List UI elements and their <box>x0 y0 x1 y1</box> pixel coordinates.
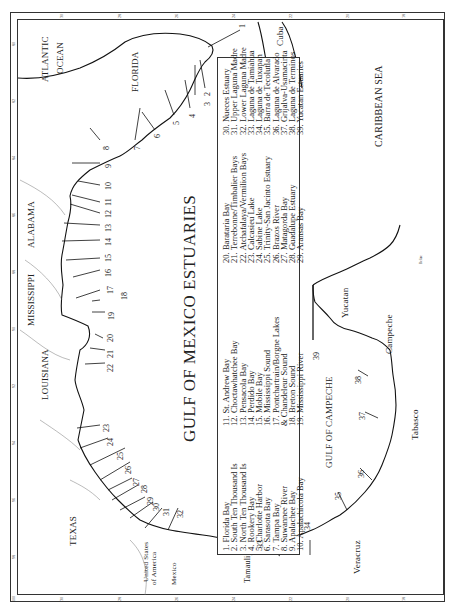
callout-30: 30 <box>152 503 161 511</box>
callout-28: 28 <box>140 485 149 493</box>
label-yucatan: Yucatan <box>340 288 350 318</box>
lon-tick-88: 88 <box>11 270 16 274</box>
legend-item: 10. Apalachicola Bay <box>296 463 304 551</box>
map-title: GULF OF MEXICO ESTUARIES <box>180 195 200 442</box>
label-florida: FLORIDA <box>130 52 140 92</box>
label-louisiana: LOUISIANA <box>40 349 50 400</box>
lon-tick-92: 92 <box>11 384 16 388</box>
lat-tick-26-bottom: 26 <box>174 597 179 601</box>
lat-tick-26-top: 26 <box>174 14 179 18</box>
label-texas: TEXAS <box>68 516 78 546</box>
lon-tick-82: 82 <box>11 99 16 103</box>
callout-4: 4 <box>188 114 197 118</box>
callout-22: 22 <box>106 364 115 372</box>
label-gulf-of-campeche: GULF OF CAMPECHE <box>324 376 334 468</box>
label-atlantic: ATLANTIC <box>40 36 50 82</box>
callout-2: 2 <box>203 92 212 96</box>
lon-tick-98: 98 <box>11 555 16 559</box>
callout-34: 34 <box>303 522 312 530</box>
callout-32: 32 <box>176 510 185 518</box>
label-campeche: Campeche <box>384 314 394 354</box>
callout-16: 16 <box>104 269 113 277</box>
label-cuba: Cuba <box>275 26 285 46</box>
callout-24: 24 <box>106 438 115 446</box>
legend-item: 39. Yucatan Estuaries <box>296 47 304 135</box>
label-belize: Belize <box>419 255 423 264</box>
label-usa-line2: of America <box>150 552 158 585</box>
callout-17: 17 <box>106 286 115 294</box>
callout-38: 38 <box>354 376 363 384</box>
lat-tick-18-top: 18 <box>401 14 406 18</box>
callout-9: 9 <box>104 164 113 168</box>
lat-tick-30-top: 30 <box>59 14 64 18</box>
lon-tick-100: 100 <box>11 596 16 602</box>
callout-7: 7 <box>133 146 142 150</box>
legend-column-1: 1. Florida Bay 2. South Ten Thousand Is … <box>222 463 305 551</box>
legend-column-2: 11. St. Andrew Bay 12. Choctawhatchee Ba… <box>222 317 305 426</box>
legend-column-4: 30. Nueces Estuary 31. Upper Laguna Madr… <box>222 47 305 135</box>
lon-tick-84: 84 <box>11 156 16 160</box>
label-tabasco: Tabasco <box>410 409 420 440</box>
callout-21: 21 <box>106 350 115 358</box>
lon-tick-86: 86 <box>11 213 16 217</box>
callout-23: 23 <box>102 424 111 432</box>
label-veracruz: Veracruz <box>352 540 362 574</box>
label-ocean: OCEAN <box>55 42 65 74</box>
callout-14: 14 <box>104 238 113 246</box>
label-mexico: Mexico <box>170 562 178 585</box>
callout-25: 25 <box>116 452 125 460</box>
lat-tick-22-bottom: 22 <box>288 597 293 601</box>
callout-26: 26 <box>124 466 133 474</box>
label-alabama: ALABAMA <box>26 201 36 248</box>
callout-3: 3 <box>203 102 212 106</box>
callout-5: 5 <box>172 121 181 125</box>
callout-19: 19 <box>107 312 116 320</box>
lon-tick-94: 94 <box>11 441 16 445</box>
lat-tick-24-top: 24 <box>231 14 236 18</box>
callout-8: 8 <box>102 146 111 150</box>
callout-33: 33 <box>256 540 265 548</box>
lon-tick-90: 90 <box>11 327 16 331</box>
lat-tick-20-top: 20 <box>345 14 350 18</box>
callout-15: 15 <box>104 254 113 262</box>
callout-12: 12 <box>104 210 113 218</box>
callout-37: 37 <box>358 412 367 420</box>
callout-10: 10 <box>104 182 113 190</box>
lon-tick-96: 96 <box>11 498 16 502</box>
callout-18: 18 <box>120 292 129 300</box>
lat-tick-18-bottom: 18 <box>401 597 406 601</box>
callout-11: 11 <box>104 198 113 206</box>
label-caribbean-sea: CARIBBEAN SEA <box>373 65 384 147</box>
callout-6: 6 <box>153 134 162 138</box>
legend-item: 19. Mississippi River <box>296 317 304 426</box>
callout-13: 13 <box>104 224 113 232</box>
lat-tick-30-bottom: 30 <box>59 597 64 601</box>
legend-item: 29. Aransas Bay <box>296 153 304 263</box>
legend-column-3: 20. Barataria Bay 21. Terrebonne/Timbali… <box>222 153 305 263</box>
lat-tick-22-top: 22 <box>288 14 293 18</box>
callout-20: 20 <box>106 334 115 342</box>
lon-tick-80: 80 <box>11 42 16 46</box>
callout-31: 31 <box>162 508 171 516</box>
callout-1: 1 <box>238 24 247 28</box>
lat-tick-28-bottom: 28 <box>117 597 122 601</box>
callout-39: 39 <box>312 352 321 360</box>
callout-36: 36 <box>357 470 366 478</box>
callout-35: 35 <box>334 492 343 500</box>
lat-tick-24-bottom: 24 <box>231 597 236 601</box>
lat-tick-20-bottom: 20 <box>345 597 350 601</box>
label-usa-line1: United States <box>142 542 150 582</box>
label-mississippi: MISSISSIPPI <box>26 274 36 326</box>
lat-tick-28-top: 28 <box>117 14 122 18</box>
